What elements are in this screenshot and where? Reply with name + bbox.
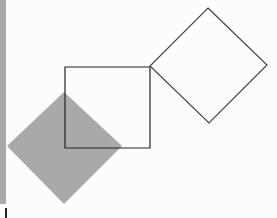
outlined-diamond [150,8,267,123]
geometry-diagram [0,0,277,218]
